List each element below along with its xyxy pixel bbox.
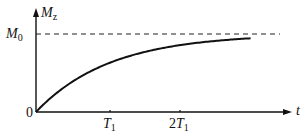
2t1-tick-label: 2T1 [169,117,189,133]
x-axis-arrow-icon [283,109,292,115]
y-axis-label-sub: z [53,11,57,22]
t1-tick-label: T1 [103,117,116,133]
m0-label-main: M [6,26,18,41]
t1-sub: 1 [111,122,116,133]
y-axis-label: Mz [41,6,57,22]
m0-label: M0 [6,27,23,43]
2t1-main: T [176,116,184,131]
m0-label-sub: 0 [18,32,23,43]
origin-label: 0 [26,106,33,120]
x-axis-label: t [296,104,300,118]
2t1-prefix: 2 [169,116,176,131]
t1-main: T [103,116,111,131]
y-axis-arrow-icon [33,8,39,17]
2t1-sub: 1 [184,122,189,133]
y-axis-label-main: M [41,5,53,20]
saturation-curve [36,38,251,112]
